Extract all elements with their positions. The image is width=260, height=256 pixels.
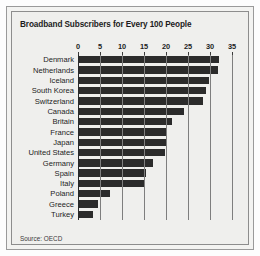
gridline (144, 55, 145, 220)
category-label: Greece (49, 200, 74, 209)
bar-row: Britain (78, 117, 232, 127)
axis-baseline (78, 55, 79, 220)
category-label: Japan (53, 138, 74, 147)
category-label: Germany (43, 159, 74, 168)
gridline (188, 55, 189, 220)
chart-figure: Broadband Subscribers for Every 100 Peop… (0, 0, 260, 256)
x-tick-label: 30 (206, 42, 214, 51)
category-label: Denmark (43, 55, 74, 64)
gridline (210, 55, 211, 220)
category-label: Britain (52, 117, 74, 126)
bar-row: France (78, 127, 232, 137)
category-label: Canada (47, 107, 74, 116)
x-axis-tick-labels: 05101520253035 (78, 42, 232, 54)
plot-area: DenmarkNetherlandsIcelandSouth KoreaSwit… (78, 55, 232, 220)
bar-row: Spain (78, 168, 232, 178)
bar (78, 200, 98, 207)
bar-row: Greece (78, 199, 232, 209)
gridline (100, 55, 101, 220)
bar (78, 180, 145, 187)
category-label: South Korea (32, 86, 74, 95)
category-label: Poland (50, 189, 74, 198)
x-tick-label: 0 (76, 42, 80, 51)
bar (78, 169, 146, 176)
bar (78, 159, 153, 166)
chart-title: Broadband Subscribers for Every 100 Peop… (20, 20, 191, 29)
bar (78, 190, 110, 197)
category-label: Italy (60, 179, 74, 188)
bar-row: United States (78, 148, 232, 158)
x-tick-label: 5 (98, 42, 102, 51)
bar-row: Iceland (78, 76, 232, 86)
bar (78, 87, 206, 94)
bar-row: Denmark (78, 55, 232, 65)
bar-row: Canada (78, 107, 232, 117)
x-tick-label: 15 (140, 42, 148, 51)
x-tick-label: 20 (162, 42, 170, 51)
bar (78, 118, 172, 125)
category-label: Switzerland (35, 97, 74, 106)
category-label: Spain (55, 169, 74, 178)
category-label: Turkey (51, 210, 74, 219)
bar-row: South Korea (78, 86, 232, 96)
bar-row: Germany (78, 158, 232, 168)
gridline (166, 55, 167, 220)
category-label: Netherlands (33, 66, 74, 75)
gridline (122, 55, 123, 220)
category-label: Iceland (50, 76, 75, 85)
x-tick-label: 10 (118, 42, 126, 51)
bar-row: Poland (78, 189, 232, 199)
x-tick-label: 25 (184, 42, 192, 51)
bar (78, 108, 184, 115)
category-label: United States (28, 148, 74, 157)
bar-row: Turkey (78, 210, 232, 220)
category-label: France (50, 128, 74, 137)
bar-row: Netherlands (78, 65, 232, 75)
bar (78, 97, 203, 104)
bar-row: Japan (78, 138, 232, 148)
x-tick-label: 35 (228, 42, 236, 51)
bar (78, 211, 93, 218)
bar-row: Switzerland (78, 96, 232, 106)
bar-row: Italy (78, 179, 232, 189)
source-note: Source: OECD (20, 235, 62, 242)
bar-rows: DenmarkNetherlandsIcelandSouth KoreaSwit… (78, 55, 232, 220)
gridline (232, 55, 233, 220)
